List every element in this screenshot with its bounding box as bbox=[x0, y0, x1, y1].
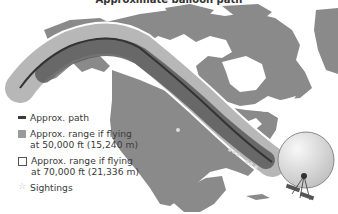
map-title: Approximate balloon path bbox=[0, 0, 338, 5]
legend-item-range-70k: Approx. range if flying at 70,000 ft (21… bbox=[18, 155, 139, 177]
legend-item-sightings: ☆ Sightings bbox=[18, 182, 139, 193]
filled-square-icon bbox=[18, 130, 26, 138]
empty-square-icon bbox=[18, 157, 27, 166]
legend-item-path: Approx. path bbox=[18, 112, 139, 123]
path-line-icon bbox=[18, 116, 26, 119]
legend-label-line2: at 50,000 ft (15,240 m) bbox=[30, 139, 138, 150]
balloon-icon bbox=[278, 132, 334, 200]
cuba bbox=[246, 194, 270, 200]
star-icon: ☆ bbox=[18, 181, 26, 192]
legend-label: Approx. range if flying at 70,000 ft (21… bbox=[31, 155, 139, 177]
greenland bbox=[314, 8, 338, 74]
legend-label-line1: Approx. range if flying bbox=[30, 128, 132, 139]
legend-label-line1: Approx. range if flying bbox=[31, 155, 133, 166]
legend-label: Approx. path bbox=[30, 112, 89, 123]
map-legend: Approx. path Approx. range if flying at … bbox=[18, 112, 139, 198]
legend-item-range-50k: Approx. range if flying at 50,000 ft (15… bbox=[18, 128, 139, 150]
legend-label: Approx. range if flying at 50,000 ft (15… bbox=[30, 128, 138, 150]
legend-label: Sightings bbox=[30, 182, 73, 193]
legend-label-line2: at 70,000 ft (21,336 m) bbox=[31, 166, 139, 177]
